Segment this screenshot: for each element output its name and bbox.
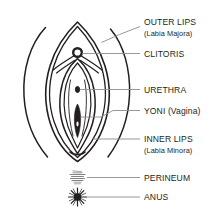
label-yoni-main: YONI (Vagina) (144, 106, 201, 116)
label-anus-main: ANUS (144, 192, 168, 202)
vaginal-opening-marker (74, 104, 80, 138)
label-urethra-main: URETHRA (144, 85, 186, 95)
label-inner-lips-main: INNER LIPS (144, 134, 193, 144)
anatomy-illustration: OUTER LIPS (Labia Majora) CLITORIS URETH… (0, 0, 213, 217)
label-outer-lips-sub: (Labia Majora) (144, 29, 192, 38)
outer-labia-right-arc (108, 29, 130, 157)
label-clitoris-main: CLITORIS (144, 49, 184, 59)
urethra-marker (75, 87, 79, 93)
outer-labia-left-arc (24, 28, 48, 158)
leader-outer-lips (102, 27, 141, 43)
anus-starburst-marker (69, 188, 87, 206)
perineum-texture-marker (70, 171, 85, 184)
label-outer-lips-main: OUTER LIPS (144, 17, 196, 27)
vaginal-opening-highlight (76, 122, 78, 127)
anatomy-diagram: OUTER LIPS (Labia Majora) CLITORIS URETH… (0, 0, 213, 217)
clitoris-marker (73, 48, 82, 57)
vestibule-left-line (69, 80, 73, 136)
label-inner-lips-sub: (Labia Minora) (144, 146, 192, 155)
label-perineum-main: PERINEUM (144, 173, 190, 183)
vestibule-right-line (82, 80, 86, 136)
